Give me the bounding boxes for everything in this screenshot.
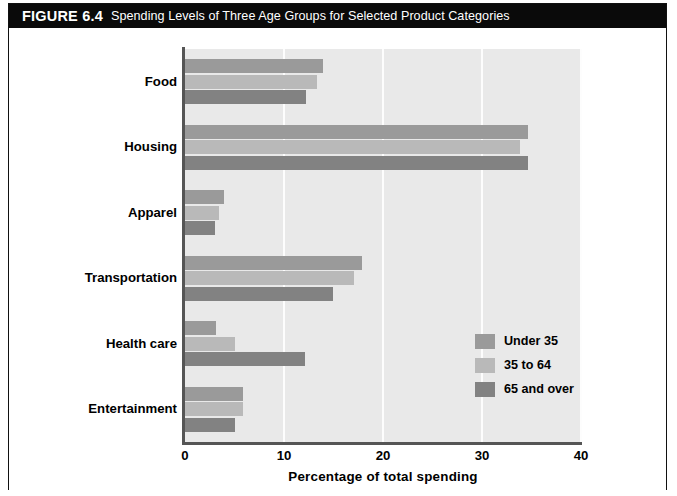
legend-swatch: [475, 358, 495, 373]
figure-container: FIGURE 6.4 Spending Levels of Three Age …: [8, 3, 667, 490]
figure-number: FIGURE 6.4: [22, 8, 103, 24]
bar: [185, 156, 528, 170]
gridline: [382, 49, 384, 442]
x-tick-label: 0: [181, 448, 188, 463]
category-label: Apparel: [128, 205, 177, 220]
category-label: Housing: [124, 139, 177, 154]
bar: [185, 190, 224, 204]
category-label: Entertainment: [88, 401, 177, 416]
bar: [185, 402, 243, 416]
legend-label: 65 and over: [504, 382, 574, 396]
figure-caption: Spending Levels of Three Age Groups for …: [111, 9, 510, 23]
bar: [185, 287, 333, 301]
x-axis-title: Percentage of total spending: [185, 469, 581, 484]
x-tick-label: 30: [475, 448, 490, 463]
legend-item: 35 to 64: [475, 353, 574, 377]
legend-item: 65 and over: [475, 377, 574, 401]
category-axis-labels: FoodHousingApparelTransportationHealth c…: [9, 28, 177, 468]
legend-label: Under 35: [504, 334, 558, 348]
bar: [185, 59, 323, 73]
bar: [185, 352, 305, 366]
bar-chart: FoodHousingApparelTransportationHealth c…: [9, 28, 666, 490]
legend-swatch: [475, 382, 495, 397]
chart-legend: Under 3535 to 6465 and over: [475, 329, 574, 401]
category-label: Health care: [106, 336, 177, 351]
bar: [185, 256, 362, 270]
bar: [185, 387, 243, 401]
x-tick-label: 20: [376, 448, 391, 463]
legend-swatch: [475, 334, 495, 349]
bar: [185, 75, 317, 89]
bar: [185, 125, 528, 139]
legend-label: 35 to 64: [504, 358, 551, 372]
category-label: Food: [145, 74, 177, 89]
bar: [185, 321, 216, 335]
bar: [185, 90, 306, 104]
bar: [185, 418, 235, 432]
bar: [185, 140, 520, 154]
x-tick-label: 10: [277, 448, 292, 463]
bar: [185, 221, 215, 235]
category-label: Transportation: [85, 270, 177, 285]
gridline: [283, 49, 285, 442]
legend-item: Under 35: [475, 329, 574, 353]
x-tick-label: 40: [574, 448, 589, 463]
gridline: [580, 49, 582, 442]
figure-title-bar: FIGURE 6.4 Spending Levels of Three Age …: [9, 4, 666, 28]
bar: [185, 206, 219, 220]
bar: [185, 271, 354, 285]
bar: [185, 337, 235, 351]
y-axis-line: [182, 47, 185, 444]
x-axis-line: [182, 442, 582, 445]
